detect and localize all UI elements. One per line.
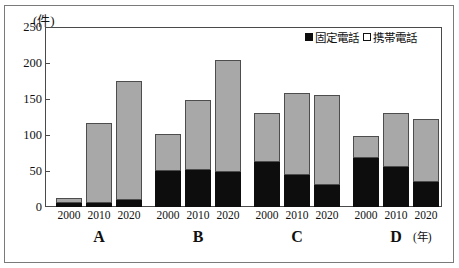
x-year-label-a-2020: 2020 <box>118 209 141 221</box>
x-year-label-a-2010: 2010 <box>88 209 111 221</box>
legend-item-fixed-phone: 固定電話 <box>305 29 359 45</box>
segment-fixed-d-2010 <box>383 167 409 207</box>
bar-b-2000 <box>155 134 181 207</box>
bar-group-d <box>353 27 439 207</box>
x-group-label-b: B <box>193 228 204 246</box>
x-year-label-b-2010: 2010 <box>187 209 210 221</box>
bar-a-2000 <box>56 198 82 207</box>
segment-fixed-b-2000 <box>155 171 181 207</box>
segment-fixed-d-2020 <box>413 182 439 207</box>
segment-mobile-b-2000 <box>155 134 181 171</box>
bar-b-2010 <box>185 100 211 207</box>
bar-c-2020 <box>314 95 340 207</box>
x-group-label-c: C <box>291 228 303 246</box>
bar-d-2000 <box>353 136 379 207</box>
bar-group-b <box>155 27 241 207</box>
y-tick-label-250: 250 <box>8 20 42 35</box>
x-group-label-a: A <box>93 228 105 246</box>
bar-d-2020 <box>413 119 439 207</box>
bar-a-2020 <box>116 81 142 207</box>
x-year-label-c-2020: 2020 <box>316 209 339 221</box>
segment-mobile-a-2010 <box>86 123 112 204</box>
y-tick-label-100: 100 <box>8 128 42 143</box>
segment-mobile-c-2010 <box>284 93 310 175</box>
segment-fixed-b-2020 <box>215 172 241 207</box>
x-year-label-d-2010: 2010 <box>385 209 408 221</box>
legend-swatch-mobile-phone-icon <box>363 33 371 41</box>
y-tick-label-200: 200 <box>8 56 42 71</box>
x-axis-unit-label: (年) <box>413 228 432 244</box>
segment-mobile-c-2020 <box>314 95 340 185</box>
segment-fixed-c-2000 <box>254 162 280 207</box>
bar-group-c <box>254 27 340 207</box>
y-axis-tick-labels: 250 200 150 100 50 0 <box>2 27 42 207</box>
segment-fixed-c-2010 <box>284 175 310 207</box>
segment-mobile-b-2020 <box>215 60 241 172</box>
segment-mobile-b-2010 <box>185 100 211 170</box>
segment-fixed-a-2010 <box>86 203 112 207</box>
bar-a-2010 <box>86 123 112 207</box>
segment-fixed-a-2020 <box>116 200 142 207</box>
chart-figure: (件) 250 200 150 100 50 0 固定電話 携帯電話 20002… <box>0 0 459 268</box>
x-year-label-a-2000: 2000 <box>58 209 81 221</box>
x-year-label-b-2000: 2000 <box>157 209 180 221</box>
segment-fixed-a-2000 <box>56 203 82 207</box>
legend-label-fixed-phone: 固定電話 <box>315 29 359 45</box>
segment-mobile-d-2020 <box>413 119 439 182</box>
segment-mobile-c-2000 <box>254 113 280 162</box>
legend-item-mobile-phone: 携帯電話 <box>363 29 417 45</box>
legend-swatch-fixed-phone-icon <box>305 33 313 41</box>
bar-d-2010 <box>383 113 409 207</box>
x-year-label-d-2000: 2000 <box>355 209 378 221</box>
y-tick-label-150: 150 <box>8 92 42 107</box>
x-year-label-c-2010: 2010 <box>286 209 309 221</box>
bar-c-2010 <box>284 93 310 207</box>
bar-c-2000 <box>254 113 280 207</box>
x-group-label-d: D <box>390 228 402 246</box>
segment-mobile-d-2010 <box>383 113 409 167</box>
x-year-label-c-2000: 2000 <box>256 209 279 221</box>
y-tick-label-0: 0 <box>8 200 42 215</box>
segment-mobile-a-2020 <box>116 81 142 200</box>
bars-layer <box>45 27 442 207</box>
segment-fixed-c-2020 <box>314 185 340 207</box>
bar-group-a <box>56 27 142 207</box>
chart-legend: 固定電話 携帯電話 <box>303 27 419 45</box>
bar-b-2020 <box>215 60 241 207</box>
segment-fixed-b-2010 <box>185 170 211 207</box>
legend-label-mobile-phone: 携帯電話 <box>373 29 417 45</box>
x-year-label-d-2020: 2020 <box>415 209 438 221</box>
x-year-label-b-2020: 2020 <box>217 209 240 221</box>
y-tick-label-50: 50 <box>8 164 42 179</box>
segment-mobile-d-2000 <box>353 136 379 158</box>
segment-fixed-d-2000 <box>353 158 379 207</box>
